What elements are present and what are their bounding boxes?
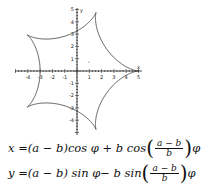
- eq-y-lhs: y =: [8, 166, 28, 180]
- eq-x-lhs: x =: [8, 141, 28, 155]
- eq-x-tail: φ: [192, 141, 200, 155]
- left-paren: (: [146, 138, 154, 158]
- right-paren: ): [180, 163, 188, 183]
- x-tick-labels: -4-3-2-112345: [25, 74, 140, 80]
- y-tick-label: 4: [71, 19, 74, 25]
- y-tick-label: -1: [69, 80, 74, 86]
- x-tick-label: -2: [50, 74, 55, 80]
- y-tick-label: 1: [71, 56, 74, 62]
- y-tick-label: -4: [69, 117, 74, 123]
- y-tick-label: 5: [71, 6, 74, 12]
- x-tick-label: -4: [25, 74, 30, 80]
- right-paren: ): [184, 138, 192, 158]
- x-tick-label: 1: [88, 74, 91, 80]
- x-tick-label: -1: [62, 74, 67, 80]
- equation-x: x = (a − b) cos φ + b cos ( a − b b ) φ: [8, 138, 200, 158]
- eq-x-fraction: a − b b: [155, 139, 183, 158]
- x-tick-label: 5: [137, 74, 140, 80]
- origin-dot: [88, 61, 89, 62]
- equation-y: y = (a − b) sin φ − b sin ( a − b b ) φ: [8, 163, 196, 183]
- y-tick-labels: 54321-1-2-3-4: [69, 6, 74, 123]
- y-tick-label: 2: [71, 43, 74, 49]
- x-tick-label: 3: [112, 74, 115, 80]
- eq-x-num: a − b: [155, 139, 183, 149]
- eq-y-num: a − b: [150, 164, 178, 174]
- y-tick-label: -2: [69, 92, 74, 98]
- x-tick-label: 2: [100, 74, 103, 80]
- x-axis-label: x: [137, 64, 140, 70]
- eq-x-den: b: [166, 149, 172, 158]
- eq-y-den: b: [162, 174, 168, 183]
- eq-x-part2: cos φ + b cos: [68, 141, 146, 155]
- eq-x-part1: (a − b): [28, 141, 68, 155]
- y-axis-label: y: [80, 7, 83, 14]
- eq-y-fraction: a − b b: [150, 164, 178, 183]
- eq-y-part2: − b sin: [100, 166, 141, 180]
- eq-y-tail: φ: [188, 166, 196, 180]
- eq-y-part1: (a − b) sin φ: [28, 166, 101, 180]
- hypocycloid-plot: -4-3-2-112345 54321-1-2-3-4 x y: [0, 0, 215, 135]
- y-ticks: [75, 10, 79, 133]
- left-paren: (: [142, 163, 150, 183]
